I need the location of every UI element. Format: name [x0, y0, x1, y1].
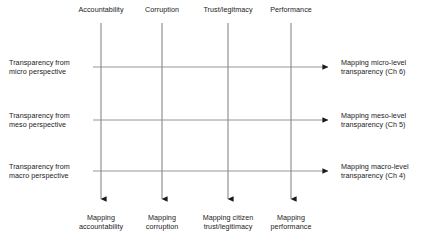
row-label-left-meso: Transparency from meso perspective	[9, 111, 70, 130]
row-lines	[93, 67, 328, 171]
column-header-trust-legitimacy: Trust/legitmacy	[203, 5, 252, 14]
column-footer-performance: Mapping performance	[271, 213, 312, 232]
column-footer-trust-legitimacy: Mapping citizen trust/legitimacy	[203, 213, 254, 232]
row-label-left-macro: Transparency from macro perspective	[9, 162, 70, 181]
row-label-right-micro: Mapping micro-level transparency (Ch 6)	[341, 58, 406, 77]
row-label-right-macro: Mapping macro-level transparency (Ch 4)	[341, 162, 409, 181]
column-header-accountability: Accountability	[78, 5, 123, 14]
column-footer-accountability: Mapping accountability	[79, 213, 123, 232]
column-lines	[101, 23, 291, 199]
transparency-mapping-diagram: Accountability Corruption Trust/legitmac…	[0, 0, 423, 245]
column-footer-corruption: Mapping corruption	[146, 213, 178, 232]
column-header-corruption: Corruption	[145, 5, 179, 14]
column-header-performance: Performance	[270, 5, 312, 14]
row-label-right-meso: Mapping meso-level transparency (Ch 5)	[341, 111, 406, 130]
row-label-left-micro: Transparency from micro perspective	[9, 58, 70, 77]
